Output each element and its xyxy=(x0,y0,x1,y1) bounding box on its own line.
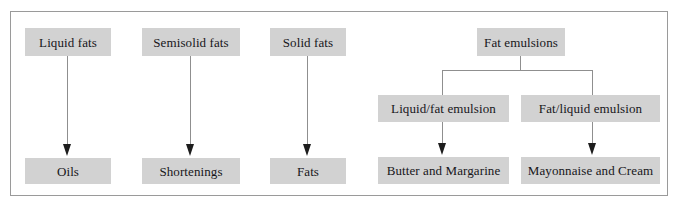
connector-solid-fats-to-fats xyxy=(307,56,308,146)
node-oils: Oils xyxy=(25,158,111,184)
arrowhead-butter-and-margarine xyxy=(438,143,446,155)
connector-liquid-fats-to-oils xyxy=(67,56,68,146)
node-mayonnaise-and-cream: Mayonnaise and Cream xyxy=(521,157,660,184)
arrowhead-oils xyxy=(63,144,71,156)
connector-fat-emulsions-crossbar xyxy=(442,70,593,71)
arrowhead-mayonnaise-and-cream xyxy=(588,143,596,155)
arrowhead-fats xyxy=(303,144,311,156)
node-solid-fats: Solid fats xyxy=(270,28,346,56)
node-liquid-fats: Liquid fats xyxy=(25,28,111,56)
fats-classification-diagram: Liquid fats Oils Semisolid fats Shorteni… xyxy=(0,0,680,206)
connector-semisolid-fats-to-shortenings xyxy=(190,56,191,146)
connector-drop-fat-liquid-emulsion xyxy=(592,70,593,95)
node-fat-emulsions: Fat emulsions xyxy=(477,28,565,56)
connector-liquid-fat-emulsion-to-butter xyxy=(442,122,443,145)
node-liquid-fat-emulsion: Liquid/fat emulsion xyxy=(378,95,509,122)
connector-fat-emulsions-stem xyxy=(520,56,521,71)
caption-fragment xyxy=(14,0,334,3)
connector-fat-liquid-emulsion-to-mayonnaise xyxy=(592,122,593,145)
node-fats: Fats xyxy=(270,158,346,184)
arrowhead-shortenings xyxy=(186,144,194,156)
connector-drop-liquid-fat-emulsion xyxy=(442,70,443,95)
node-fat-liquid-emulsion: Fat/liquid emulsion xyxy=(521,95,660,122)
node-semisolid-fats: Semisolid fats xyxy=(142,28,240,56)
node-shortenings: Shortenings xyxy=(142,158,240,184)
node-butter-and-margarine: Butter and Margarine xyxy=(378,157,509,184)
